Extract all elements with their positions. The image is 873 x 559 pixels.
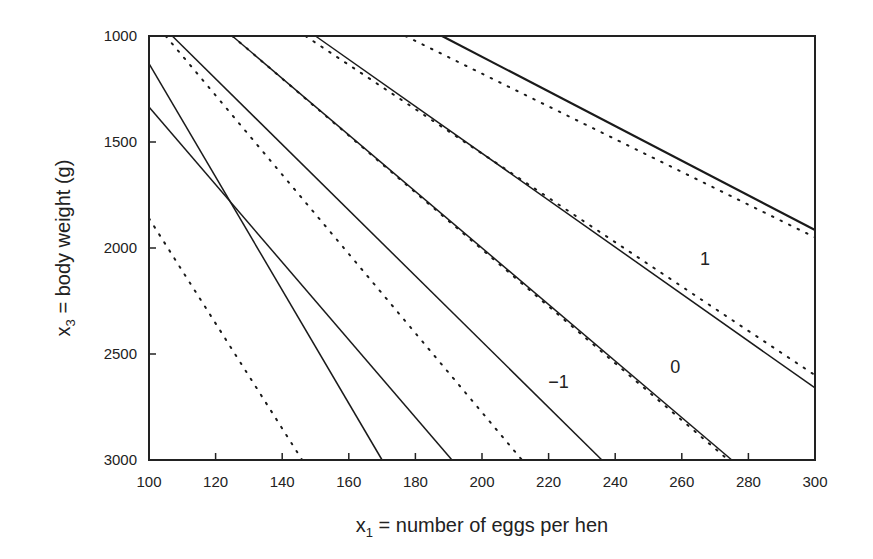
- x-tick-label: 280: [736, 473, 761, 490]
- contour-line-dotted-1: [149, 218, 302, 460]
- contour-line-solid-5: [316, 36, 816, 388]
- x-tick-label: 180: [403, 473, 428, 490]
- contour-label: −1: [548, 372, 569, 392]
- x-tick-label: 260: [669, 473, 694, 490]
- y-tick-label: 1000: [104, 27, 137, 44]
- x-axis: 100120140160180200220240260280300: [136, 453, 827, 490]
- chart-svg: 100120140160180200220240260280300 100015…: [0, 0, 873, 559]
- contour-line-solid-3: [172, 36, 602, 460]
- x-tick-label: 300: [802, 473, 827, 490]
- contour-line-solid-1: [149, 64, 382, 460]
- y-tick-label: 1500: [104, 133, 137, 150]
- x-tick-label: 240: [603, 473, 628, 490]
- y-tick-label: 2000: [104, 239, 137, 256]
- x-tick-label: 200: [469, 473, 494, 490]
- y-tick-label: 2500: [104, 345, 137, 362]
- contour-label: 1: [700, 249, 710, 269]
- contour-line-solid-4: [232, 36, 732, 460]
- x-tick-label: 140: [270, 473, 295, 490]
- contour-line-solid-6: [442, 36, 815, 230]
- contour-line-dotted-5: [405, 36, 815, 237]
- y-tick-label: 3000: [104, 451, 137, 468]
- contour-labels: 10−1: [548, 249, 710, 392]
- series-layer: [149, 36, 815, 460]
- y-axis-title: x3 = body weight (g): [52, 160, 78, 337]
- contour-line-dotted-4: [306, 36, 816, 375]
- x-tick-label: 160: [336, 473, 361, 490]
- x-tick-label: 220: [536, 473, 561, 490]
- x-tick-label: 100: [136, 473, 161, 490]
- x-axis-title: x1 = number of eggs per hen: [356, 514, 608, 540]
- x-tick-label: 120: [203, 473, 228, 490]
- contour-line-solid-2: [149, 107, 452, 460]
- contour-label: 0: [670, 357, 680, 377]
